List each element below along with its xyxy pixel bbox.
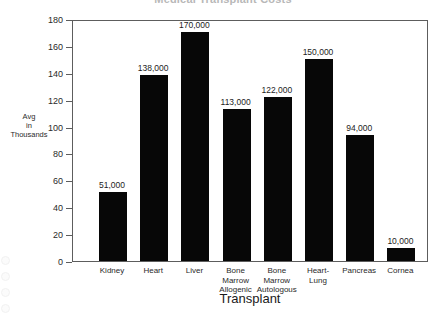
y-axis-tick-label: 120 [48,96,63,105]
y-axis-tick-label: 180 [48,16,63,25]
bar [223,109,251,261]
x-axis-category-label-line: Lung [288,276,348,286]
y-axis-tick-label: 60 [53,177,63,186]
bar-value-label: 51,000 [80,181,144,190]
y-axis-tick-label: 140 [48,69,63,78]
y-axis-tick-label: 160 [48,42,63,51]
y-axis: 020406080100120140160180 [0,0,72,311]
bar-value-label: 138,000 [121,64,185,73]
bar [99,192,127,261]
bar [387,248,415,261]
bar [181,32,209,261]
y-axis-title-line: Thousands [2,130,56,139]
bar [140,75,168,261]
y-axis-tick-label: 20 [53,231,63,240]
bar [264,97,292,261]
y-axis-tick-label: 80 [53,150,63,159]
y-axis-tick [66,262,72,263]
bar [305,59,333,261]
y-axis-tick-label: 40 [53,204,63,213]
bar-value-label: 150,000 [286,48,350,57]
bar-value-label: 170,000 [162,21,226,30]
y-axis-title-line: in [2,121,56,130]
bar-value-label: 10,000 [368,237,432,246]
plot-area [72,20,428,262]
bar-value-label: 122,000 [245,86,309,95]
x-axis-category-label-line: Cornea [370,266,430,276]
y-axis-title: AvginThousands [2,112,56,139]
bar-value-label: 94,000 [327,124,391,133]
y-axis-title-line: Avg [2,112,56,121]
x-axis-category-label-line: Autologous [247,285,307,295]
y-axis-tick-label: 0 [58,258,63,267]
x-axis-category-label: Cornea [370,266,430,276]
bar-value-label: 113,000 [204,98,268,107]
